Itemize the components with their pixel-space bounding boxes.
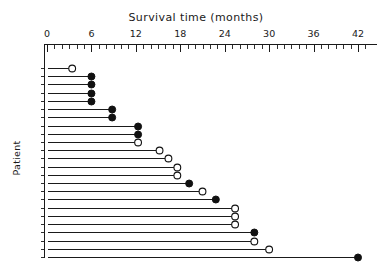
censored-marker-icon <box>232 205 239 212</box>
event-marker-icon <box>88 90 95 97</box>
survival-lollipop-chart: Survival time (months) Patient 061218243… <box>0 0 390 267</box>
patient-stems <box>48 69 358 258</box>
censored-marker-icon <box>266 246 273 253</box>
event-marker-icon <box>88 98 95 105</box>
x-axis-minor-ticks <box>55 45 366 50</box>
x-axis-tick-label: 18 <box>174 28 186 39</box>
event-marker-icon <box>355 254 362 261</box>
y-axis-label: Patient <box>11 140 22 175</box>
x-axis-tick-label: 24 <box>219 28 231 39</box>
event-marker-icon <box>109 114 116 121</box>
event-marker-icon <box>251 229 258 236</box>
censored-marker-icon <box>232 221 239 228</box>
chart-title: Survival time (months) <box>128 11 263 24</box>
event-marker-icon <box>135 123 142 130</box>
censored-marker-icon <box>135 139 142 146</box>
x-axis-tick-label: 42 <box>352 28 364 39</box>
patient-markers <box>69 65 362 261</box>
censored-marker-icon <box>232 213 239 220</box>
x-axis-tick-labels: 06121824303642 <box>44 28 364 39</box>
event-marker-icon <box>88 81 95 88</box>
x-axis-tick-label: 30 <box>263 28 275 39</box>
censored-marker-icon <box>69 65 76 72</box>
event-marker-icon <box>109 106 116 113</box>
event-marker-icon <box>135 131 142 138</box>
censored-marker-icon <box>251 238 258 245</box>
x-axis-tick-label: 12 <box>130 28 142 39</box>
event-marker-icon <box>186 180 193 187</box>
censored-marker-icon <box>165 155 172 162</box>
censored-marker-icon <box>174 172 181 179</box>
y-axis-ticks <box>41 69 45 258</box>
chart-canvas: Survival time (months) Patient 061218243… <box>0 0 390 267</box>
x-axis-major-ticks <box>48 45 359 52</box>
event-marker-icon <box>212 196 219 203</box>
censored-marker-icon <box>174 164 181 171</box>
censored-marker-icon <box>199 188 206 195</box>
x-axis-tick-label: 0 <box>44 28 50 39</box>
x-axis-tick-label: 36 <box>308 28 320 39</box>
event-marker-icon <box>88 73 95 80</box>
x-axis-tick-label: 6 <box>88 28 94 39</box>
censored-marker-icon <box>156 147 163 154</box>
